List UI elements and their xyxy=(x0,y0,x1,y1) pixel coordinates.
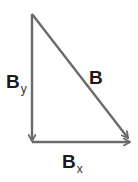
label-bx-main: B xyxy=(62,151,76,172)
label-bx: Bx xyxy=(62,152,83,171)
label-by-main: B xyxy=(6,71,20,92)
vector-b-arrow xyxy=(32,14,128,138)
label-by: By xyxy=(6,72,27,91)
label-by-subscript: y xyxy=(21,82,27,96)
label-bx-subscript: x xyxy=(77,162,83,176)
label-b-main: B xyxy=(89,67,103,88)
vector-diagram: By B Bx xyxy=(0,0,138,182)
label-b: B xyxy=(89,68,103,87)
